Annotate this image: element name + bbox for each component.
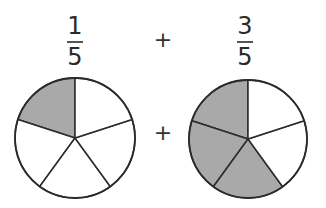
one-fifth-pie [15,78,135,198]
three-fifths-pie [189,80,307,198]
pie-diagrams [0,0,326,208]
